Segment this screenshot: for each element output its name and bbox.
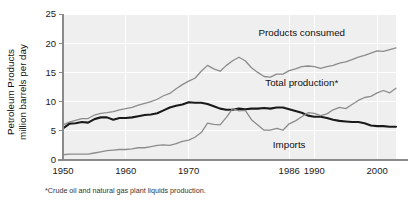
- series-annotation-label: Imports: [273, 139, 306, 150]
- y-axis-title-line2: million barrels per day: [17, 44, 28, 140]
- y-axis-tick-label: 5: [51, 125, 56, 136]
- series-annotation-label: Products consumed: [258, 27, 345, 38]
- plot-area-background: [63, 14, 396, 160]
- chart-footnote: *Crude oil and natural gas plant liquids…: [45, 186, 206, 195]
- y-axis-tick-label: 15: [45, 67, 56, 78]
- series-annotation-label: Total production*: [265, 77, 338, 88]
- petroleum-products-line-chart: 0510152025 195019601970198619902000 Prod…: [0, 0, 411, 208]
- y-axis-tick-label: 20: [45, 38, 56, 49]
- y-axis-tick-label: 10: [45, 96, 56, 107]
- y-axis-tick-label: 0: [51, 154, 56, 165]
- y-axis-tick-label: 25: [45, 8, 56, 19]
- x-axis-tick-label: 1986: [279, 165, 300, 176]
- x-axis-tick-label: 1990: [304, 165, 325, 176]
- x-axis-tick-label: 1950: [52, 165, 73, 176]
- x-axis-tick-label: 1960: [115, 165, 136, 176]
- x-axis-tick-label: 2000: [367, 165, 388, 176]
- chart-figure: 0510152025 195019601970198619902000 Prod…: [0, 0, 411, 208]
- x-axis-tick-label: 1970: [178, 165, 199, 176]
- y-axis-title-line1: Petroleum Products: [5, 49, 16, 135]
